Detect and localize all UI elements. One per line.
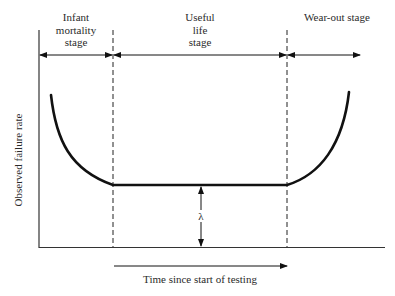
x-axis-label: Time since start of testing bbox=[143, 273, 257, 285]
svg-text:Useful: Useful bbox=[185, 11, 214, 23]
stage-label-wearout: Wear-out stage bbox=[304, 11, 370, 23]
svg-text:stage: stage bbox=[189, 36, 212, 48]
svg-text:life: life bbox=[193, 24, 208, 36]
svg-text:Wear-out stage: Wear-out stage bbox=[304, 11, 370, 23]
svg-text:stage: stage bbox=[65, 36, 88, 48]
lambda-label: λ bbox=[198, 210, 204, 222]
svg-text:mortality: mortality bbox=[56, 24, 97, 36]
stage-label-useful: Useful life stage bbox=[185, 11, 214, 48]
failure-rate-curve bbox=[51, 92, 349, 185]
bathtub-curve-diagram: Infant mortality stage Useful life stage… bbox=[0, 0, 395, 296]
stage-label-infant: Infant mortality stage bbox=[56, 11, 97, 48]
svg-text:Infant: Infant bbox=[63, 11, 89, 23]
y-axis-label: Observed failure rate bbox=[12, 113, 24, 206]
